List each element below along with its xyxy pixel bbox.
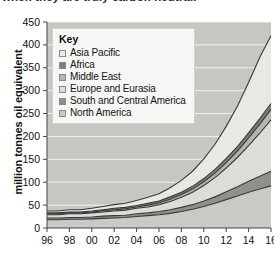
chart-legend: Key Asia Pacific Africa Middle East Euro… — [52, 28, 195, 124]
legend-label-europe-and-eurasia: Europe and Eurasia — [70, 83, 156, 95]
y-tick-label: 350 — [22, 61, 40, 73]
x-tick-label: 00 — [86, 234, 98, 246]
y-tick-label: 400 — [22, 38, 40, 50]
legend-label-middle-east: Middle East — [70, 71, 121, 83]
y-tick-label: 200 — [22, 130, 40, 142]
x-tick-label: 08 — [176, 234, 188, 246]
legend-swatch-europe-and-eurasia — [59, 86, 66, 93]
legend-swatch-asia-pacific — [59, 50, 66, 57]
legend-item-africa[interactable]: Africa — [59, 59, 189, 71]
x-tick-label: 06 — [153, 234, 165, 246]
legend-swatch-north-america — [59, 110, 66, 117]
y-tick-label: 100 — [22, 176, 40, 188]
y-tick-label: 300 — [22, 84, 40, 96]
page-caption-strip: when they are truly carbon neutral. — [0, 0, 274, 11]
y-tick-label: 150 — [22, 153, 40, 165]
legend-swatch-africa — [59, 62, 66, 69]
legend-swatch-south-and-central-america — [59, 98, 66, 105]
legend-label-south-and-central-america: South and Central America — [70, 95, 186, 107]
y-tick-label: 0 — [34, 222, 40, 234]
x-tick-label: 14 — [243, 234, 255, 246]
chart-page: when they are truly carbon neutral. mill… — [0, 0, 274, 254]
legend-swatch-middle-east — [59, 74, 66, 81]
legend-item-north-america[interactable]: North America — [59, 107, 189, 119]
y-tick-label: 50 — [28, 199, 40, 211]
legend-label-africa: Africa — [70, 59, 95, 71]
legend-item-middle-east[interactable]: Middle East — [59, 71, 189, 83]
legend-label-asia-pacific: Asia Pacific — [70, 47, 120, 59]
legend-item-europe-and-eurasia[interactable]: Europe and Eurasia — [59, 83, 189, 95]
legend-item-asia-pacific[interactable]: Asia Pacific — [59, 47, 189, 59]
x-tick-label: 16 — [265, 234, 274, 246]
y-tick-label: 450 — [22, 16, 40, 28]
page-caption-text: when they are truly carbon neutral. — [2, 0, 197, 3]
legend-title: Key — [59, 33, 189, 45]
x-tick-label: 10 — [198, 234, 210, 246]
x-tick-label: 02 — [108, 234, 120, 246]
x-tick-label: 04 — [131, 234, 143, 246]
x-tick-label: 98 — [64, 234, 76, 246]
x-tick-label: 96 — [41, 234, 53, 246]
legend-label-north-america: North America — [70, 107, 131, 119]
x-tick-label: 12 — [220, 234, 232, 246]
legend-item-south-and-central-america[interactable]: South and Central America — [59, 95, 189, 107]
y-tick-label: 250 — [22, 107, 40, 119]
